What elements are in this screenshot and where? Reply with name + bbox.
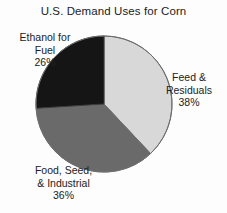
slice-label-food-line2: & Industrial xyxy=(11,177,116,190)
slice-value-feed: 38% xyxy=(152,96,226,109)
slice-label-ethanol-for-fuel: Ethanol for Fuel 26% xyxy=(2,31,88,69)
pie-chart: U.S. Demand Uses for Corn Ethanol for Fu… xyxy=(0,0,227,213)
slice-label-food-line1: Food, Seed, xyxy=(11,164,116,177)
slice-label-ethanol-line2: Fuel xyxy=(2,44,88,57)
slice-label-feed-residuals: Feed & Residuals 38% xyxy=(152,71,226,109)
slice-label-ethanol-line1: Ethanol for xyxy=(2,31,88,44)
slice-value-ethanol: 26% xyxy=(2,56,88,69)
slice-value-food: 36% xyxy=(11,189,116,202)
slice-label-food-seed-industrial: Food, Seed, & Industrial 36% xyxy=(11,164,116,202)
slice-label-feed-line1: Feed & xyxy=(152,71,226,84)
slice-label-feed-line2: Residuals xyxy=(152,84,226,97)
